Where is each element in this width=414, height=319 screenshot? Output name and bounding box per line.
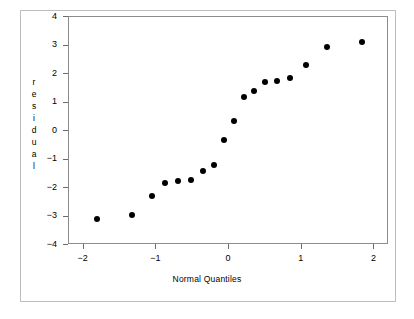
y-axis-title-char: u (27, 136, 41, 148)
y-tick-label: 0 (35, 126, 57, 135)
scatter-point (324, 44, 330, 50)
y-tick-label: 4 (35, 12, 57, 21)
scatter-point (221, 137, 227, 143)
x-tick-mark (155, 244, 156, 249)
scatter-point (188, 177, 194, 183)
y-tick-label: −4 (35, 240, 57, 249)
scatter-point (162, 180, 168, 186)
scatter-point (287, 75, 293, 81)
y-tick-label: 2 (35, 69, 57, 78)
y-tick-label: 1 (35, 97, 57, 106)
x-tick-label: 1 (291, 254, 311, 263)
y-tick-label: −2 (35, 183, 57, 192)
scatter-point (303, 62, 309, 68)
y-tick-label: 3 (35, 40, 57, 49)
y-tick-mark (63, 244, 68, 245)
scatter-point (175, 178, 181, 184)
x-tick-mark (373, 244, 374, 249)
scatter-point (359, 39, 365, 45)
scatter-point (149, 193, 155, 199)
x-tick-label: 2 (363, 254, 383, 263)
y-axis-title-char: r (27, 76, 41, 88)
qq-plot-figure: residual 43210−1−2−3−4 −2−1012 Normal Qu… (0, 0, 414, 319)
scatter-point (200, 168, 206, 174)
scatter-point (274, 78, 280, 84)
x-tick-label: −1 (145, 254, 165, 263)
x-tick-label: 0 (218, 254, 238, 263)
x-tick-mark (83, 244, 84, 249)
scatter-point (241, 94, 247, 100)
y-axis-title-char: i (27, 112, 41, 124)
scatter-point (231, 118, 237, 124)
y-tick-label: −3 (35, 211, 57, 220)
scatter-point (211, 162, 217, 168)
y-tick-label: −1 (35, 154, 57, 163)
x-axis-title: Normal Quantiles (0, 274, 414, 284)
scatter-point (94, 216, 100, 222)
x-tick-mark (228, 244, 229, 249)
scatter-point (262, 79, 268, 85)
plot-area (68, 16, 388, 244)
scatter-point (129, 212, 135, 218)
x-tick-label: −2 (73, 254, 93, 263)
scatter-point (251, 88, 257, 94)
x-tick-mark (301, 244, 302, 249)
